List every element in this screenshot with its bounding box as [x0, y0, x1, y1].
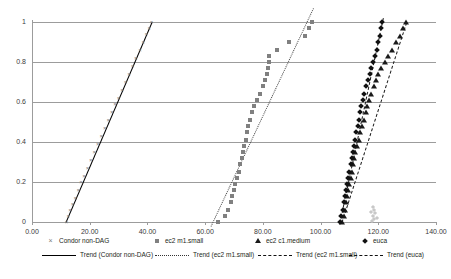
data-point-square: [261, 84, 265, 88]
trend-line: [210, 8, 313, 226]
data-point-diamond: [370, 214, 374, 218]
chart-container: 00.20.40.60.81 0.0020.0040.0060.0080.001…: [0, 0, 451, 279]
trend-line: [339, 18, 383, 222]
data-point-square: [244, 138, 248, 142]
x-tick-label: 0.00: [12, 227, 52, 236]
data-point-square: [248, 118, 252, 122]
gridline: [32, 222, 436, 223]
legend-label: ec2 m1.small: [165, 237, 203, 245]
data-point-square: [263, 78, 267, 82]
data-point-square: [230, 194, 234, 198]
legend-line-swatch: [155, 255, 189, 256]
x-tick-label: 80.00: [243, 227, 283, 236]
x-tick-label: 120.00: [358, 227, 398, 236]
legend-line-swatch: [42, 255, 76, 256]
x-tick-label: 40.00: [127, 227, 167, 236]
x-tick-label: 20.00: [70, 227, 110, 236]
data-point-diamond: [371, 205, 375, 209]
x-tick: [321, 222, 322, 225]
legend-cross-icon: ×: [46, 236, 55, 245]
legend-line-swatch: [349, 255, 383, 256]
x-tick: [378, 222, 379, 225]
data-point-triangle: [368, 92, 374, 97]
legend-label: Trend (Condor non-DAG): [80, 251, 153, 259]
data-point-triangle: [371, 84, 377, 89]
data-point-square: [266, 66, 270, 70]
data-point-diamond: [374, 216, 378, 220]
legend-triangle-icon: [253, 236, 262, 245]
data-point-square: [287, 40, 291, 44]
data-point-triangle: [378, 66, 384, 71]
data-point-square: [258, 92, 262, 96]
legend-trend-dashdot[interactable]: Trend (euca): [349, 251, 424, 259]
y-tick-label: 0.8: [6, 58, 26, 66]
legend-square-icon: [152, 236, 161, 245]
legend-item-ec2-m1-small[interactable]: ec2 m1.small: [152, 236, 203, 245]
plot-area: ××××××××××××××××××××××××××××: [32, 22, 436, 222]
x-tick: [32, 222, 33, 225]
x-tick: [147, 222, 148, 225]
data-point-diamond: [372, 208, 376, 212]
data-point-square: [267, 54, 271, 58]
legend-markers-row: ×Condor non-DAGec2 m1.smallec2 c1.medium…: [0, 236, 451, 251]
legend-label: Trend (euca): [387, 251, 424, 259]
x-tick: [436, 222, 437, 225]
data-point-square: [242, 144, 246, 148]
trend-line: [66, 22, 153, 222]
data-point-square: [275, 48, 279, 52]
data-point-triangle: [373, 78, 379, 83]
data-point-triangle: [375, 72, 381, 77]
data-point-triangle: [393, 40, 399, 45]
legend-label: ec2 c1.medium: [266, 237, 310, 245]
chart-legend: ×Condor non-DAGec2 m1.smallec2 c1.medium…: [0, 236, 451, 266]
data-point-square: [245, 130, 249, 134]
data-point-square: [223, 214, 227, 218]
legend-trends-row: Trend (Condor non-DAG)Trend (ec2 m1.smal…: [0, 251, 451, 266]
legend-trend-dotted[interactable]: Trend (ec2 m1.small): [155, 251, 254, 259]
data-point-square: [250, 110, 254, 114]
data-point-triangle: [385, 54, 391, 59]
legend-label: Trend (ec2 m1.small): [296, 251, 357, 259]
legend-label: Trend (ec2 m1.small): [193, 251, 254, 259]
y-tick-label: 0.4: [6, 138, 26, 146]
data-point-triangle: [366, 98, 372, 103]
data-point-square: [255, 98, 259, 102]
data-point-diamond: [372, 217, 376, 221]
data-point-triangle: [389, 48, 395, 53]
x-tick: [205, 222, 206, 225]
y-tick-label: 0.2: [6, 178, 26, 186]
legend-trend-dashed[interactable]: Trend (ec2 m1.small): [258, 251, 357, 259]
data-point-square: [252, 104, 256, 108]
data-point-square: [229, 200, 233, 204]
x-tick: [90, 222, 91, 225]
data-point-square: [307, 26, 311, 30]
y-tick-label: 1: [6, 18, 26, 26]
trend-line: [341, 22, 407, 222]
data-point-square: [267, 60, 271, 64]
data-point-square: [233, 182, 237, 186]
data-point-square: [303, 34, 307, 38]
data-point-square: [226, 208, 230, 212]
legend-trend-solid[interactable]: Trend (Condor non-DAG): [42, 251, 153, 259]
legend-line-swatch: [258, 255, 292, 256]
data-point-square: [246, 124, 250, 128]
data-point-diamond: [373, 211, 377, 215]
x-tick-label: 100.00: [301, 227, 341, 236]
y-tick-label: 0.6: [6, 98, 26, 106]
data-point-square: [265, 72, 269, 76]
legend-diamond-icon: [360, 236, 369, 245]
legend-item-euca[interactable]: euca: [360, 236, 387, 245]
x-tick-label: 140.00: [416, 227, 451, 236]
data-point-square: [235, 176, 239, 180]
data-point-square: [232, 188, 236, 192]
x-tick-label: 60.00: [185, 227, 225, 236]
x-tick: [263, 222, 264, 225]
data-point-square: [310, 20, 314, 24]
legend-label: Condor non-DAG: [59, 237, 109, 245]
y-tick-label: 0: [6, 218, 26, 226]
data-point-diamond: [369, 210, 373, 214]
data-point-triangle: [382, 60, 388, 65]
legend-item-condor-non-dag[interactable]: ×Condor non-DAG: [46, 236, 109, 245]
legend-item-ec2-c1-medium[interactable]: ec2 c1.medium: [253, 236, 310, 245]
legend-label: euca: [373, 237, 387, 245]
